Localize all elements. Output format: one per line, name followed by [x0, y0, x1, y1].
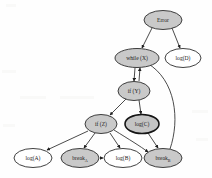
- edge-error-to-log_d: [172, 28, 180, 48]
- node-shape-if_z: [85, 115, 117, 134]
- node-shape-log_d: [165, 49, 201, 68]
- node-shape-break_a: [61, 149, 99, 168]
- node-shape-log_c: [125, 115, 159, 134]
- node-break_a[interactable]: breakA: [61, 149, 99, 168]
- edge-log_c-to-break_b: [148, 133, 158, 148]
- edge-if_z-to-break_a: [84, 133, 95, 148]
- node-if_z[interactable]: if (Z): [85, 115, 117, 134]
- node-shape-log_a: [14, 149, 52, 168]
- edge-if_z-to-log_b: [110, 133, 120, 148]
- node-shape-if_y: [118, 82, 150, 101]
- node-shape-break_b: [144, 149, 182, 168]
- node-break_b[interactable]: breakB: [144, 149, 182, 168]
- node-log_b[interactable]: log(B): [104, 149, 142, 168]
- edge-if_y-to-while_x: [139, 68, 140, 81]
- edge-break_b-to-while_x: [147, 63, 175, 149]
- node-log_d[interactable]: log(D): [165, 49, 201, 68]
- edge-while_x-to-if_y: [134, 68, 135, 81]
- diagram-canvas: Errorwhile (X)log(D)if (Y)if (Z)log(C)lo…: [0, 0, 212, 178]
- edge-if_z-to-log_a: [47, 131, 88, 150]
- edge-error-to-while_x: [142, 28, 152, 48]
- node-if_y[interactable]: if (Y): [118, 82, 150, 101]
- edges-layer: [47, 28, 180, 158]
- edge-if_y-to-log_c: [139, 100, 141, 114]
- graph-svg: Errorwhile (X)log(D)if (Y)if (Z)log(C)lo…: [0, 0, 212, 178]
- node-error[interactable]: Error: [144, 11, 182, 30]
- node-shape-log_b: [104, 149, 142, 168]
- node-while_x[interactable]: while (X): [115, 49, 159, 68]
- node-log_c[interactable]: log(C): [125, 115, 159, 134]
- node-shape-while_x: [115, 49, 159, 68]
- nodes-layer: Errorwhile (X)log(D)if (Y)if (Z)log(C)lo…: [14, 11, 201, 168]
- node-shape-error: [144, 11, 182, 30]
- node-log_a[interactable]: log(A): [14, 149, 52, 168]
- edge-if_y-to-if_z: [110, 99, 126, 115]
